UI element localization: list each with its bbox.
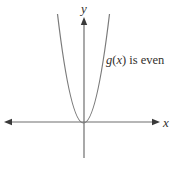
y-axis-arrowhead [81, 17, 87, 25]
x-axis-label: x [162, 115, 169, 130]
even-function-diagram: y x g(x) is even [0, 0, 179, 169]
x-axis-left-arrowhead [4, 119, 12, 125]
x-axis-right-arrowhead [152, 119, 160, 125]
diagram-canvas: y x g(x) is even [0, 0, 179, 169]
annotation-even-function: g(x) is even [106, 53, 165, 67]
y-axis-label: y [79, 1, 87, 16]
annotation-close-and-text: ) is even [122, 53, 165, 67]
